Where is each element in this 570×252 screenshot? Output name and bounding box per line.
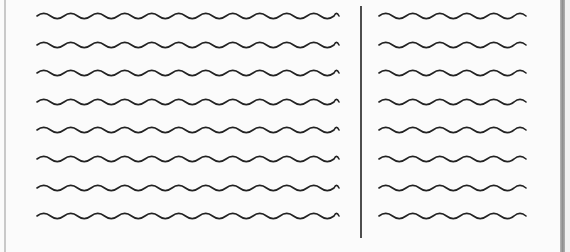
placeholder-text-line bbox=[37, 70, 339, 75]
placeholder-text-line bbox=[37, 213, 339, 218]
placeholder-text-line bbox=[379, 70, 526, 75]
placeholder-text-line bbox=[37, 127, 339, 132]
two-column-layout-diagram bbox=[0, 0, 570, 252]
left-text-column bbox=[37, 13, 339, 218]
placeholder-text-line bbox=[37, 42, 339, 47]
placeholder-text-line bbox=[379, 99, 526, 104]
placeholder-text-line bbox=[379, 127, 526, 132]
placeholder-text-line bbox=[37, 99, 339, 104]
placeholder-text-line bbox=[37, 185, 339, 190]
placeholder-text-line bbox=[379, 13, 526, 18]
placeholder-text-line bbox=[379, 156, 526, 161]
placeholder-text-line bbox=[37, 156, 339, 161]
placeholder-text-line bbox=[379, 42, 526, 47]
right-text-column bbox=[379, 13, 526, 218]
placeholder-text-line bbox=[379, 213, 526, 218]
placeholder-text-line bbox=[379, 185, 526, 190]
placeholder-text-line bbox=[37, 13, 339, 18]
